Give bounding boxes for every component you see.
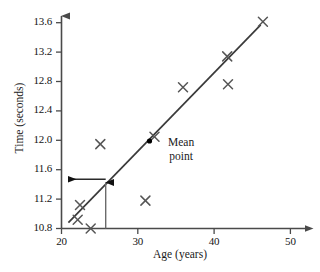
mean-point-marker bbox=[147, 138, 152, 143]
y-axis-ticks bbox=[56, 23, 62, 229]
x-tick-label-40: 40 bbox=[198, 235, 230, 247]
mean-point-label-line1: Mean bbox=[168, 135, 194, 149]
data-point bbox=[141, 196, 150, 205]
data-point-markers bbox=[73, 17, 267, 233]
line-of-best-fit bbox=[68, 25, 260, 223]
y-tick-label-13-6: 13.6 bbox=[10, 15, 52, 27]
data-point bbox=[179, 83, 188, 92]
data-point bbox=[96, 140, 105, 149]
data-point bbox=[258, 17, 267, 26]
x-tick-label-30: 30 bbox=[122, 235, 154, 247]
data-point bbox=[73, 215, 82, 224]
mean-point-label-line2: point bbox=[168, 149, 194, 163]
y-tick-label-10-8: 10.8 bbox=[10, 221, 52, 233]
x-tick-label-20: 20 bbox=[46, 235, 78, 247]
y-axis-title: Time (seconds) bbox=[13, 53, 25, 183]
data-point bbox=[224, 80, 233, 89]
y-tick-label-11-2: 11.2 bbox=[10, 192, 52, 204]
x-tick-label-50: 50 bbox=[274, 235, 306, 247]
scatter-chart: 10.8 11.2 11.6 12.0 12.4 12.8 13.2 13.6 … bbox=[0, 0, 320, 272]
mean-point-annotation: Mean point bbox=[168, 135, 194, 163]
x-axis-title: Age (years) bbox=[120, 248, 240, 260]
data-point bbox=[76, 201, 85, 210]
